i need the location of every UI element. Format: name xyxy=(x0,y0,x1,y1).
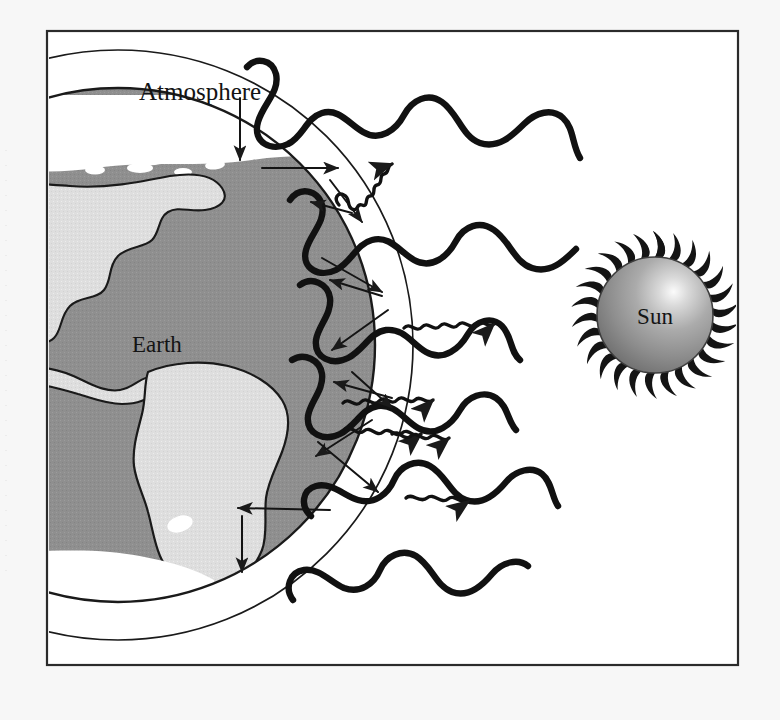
atmosphere-label: Atmosphere xyxy=(139,78,261,105)
earth-label: Earth xyxy=(132,332,182,357)
greenhouse-effect-figure: Atmosphere Earth Sun xyxy=(0,0,780,720)
figure-page: Atmosphere Earth Sun xyxy=(0,0,780,720)
sun-label: Sun xyxy=(637,304,673,329)
